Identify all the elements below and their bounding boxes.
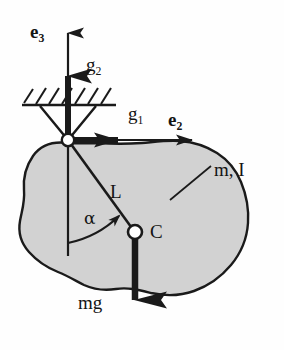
label-e2: e2 [168, 110, 182, 129]
com-marker [128, 225, 142, 239]
label-g1-subscript: 1 [138, 114, 144, 127]
label-g1: g1 [128, 104, 143, 123]
label-g2: g2 [86, 55, 101, 74]
label-g2-subscript: 2 [96, 65, 102, 78]
figure-canvas: e3 g2 g1 e2 m, I L α C mg [0, 0, 284, 350]
label-e2-subscript: 2 [176, 120, 182, 133]
label-g1-base: g [128, 103, 138, 124]
label-mass-inertia: m, I [214, 160, 245, 179]
label-weight-mg: mg [78, 293, 102, 312]
label-e3-subscript: 3 [38, 32, 44, 45]
label-angle-alpha: α [84, 210, 95, 227]
label-g2-base: g [86, 54, 96, 75]
label-center-of-mass: C [150, 222, 163, 241]
pivot-joint [62, 134, 74, 146]
label-length-L: L [110, 182, 122, 201]
label-e3: e3 [30, 22, 44, 41]
